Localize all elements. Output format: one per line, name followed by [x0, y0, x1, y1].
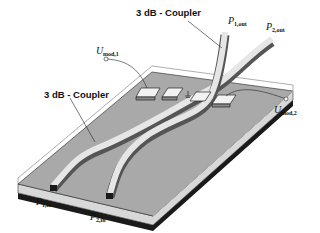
umod2-terminal [284, 97, 288, 101]
electrode-1-side [136, 97, 155, 100]
p2-out-subscript: 2,out [272, 27, 285, 33]
coupler-top-pointer [188, 21, 222, 48]
electrode-2-side [162, 97, 177, 100]
umod1-terminal [104, 57, 108, 61]
umod2-subscript: mod,2 [281, 110, 297, 116]
umod1-subscript: mod,1 [103, 51, 119, 57]
p1-out-subscript: 1,out [234, 21, 247, 27]
electrode-4-side [212, 104, 230, 107]
modulator-diagram: 3 dB - Coupler 3 dB - Coupler P 1,out P … [0, 0, 320, 233]
p2-in-subscript: 2,in [96, 217, 106, 223]
coupler-top-label: 3 dB - Coupler [136, 7, 201, 18]
p1-in-subscript: 1,in [42, 202, 52, 208]
waveguide-2-input-facet [106, 193, 113, 199]
waveguide-1-input-facet [50, 185, 57, 191]
coupler-left-label: 3 dB - Coupler [44, 89, 109, 100]
